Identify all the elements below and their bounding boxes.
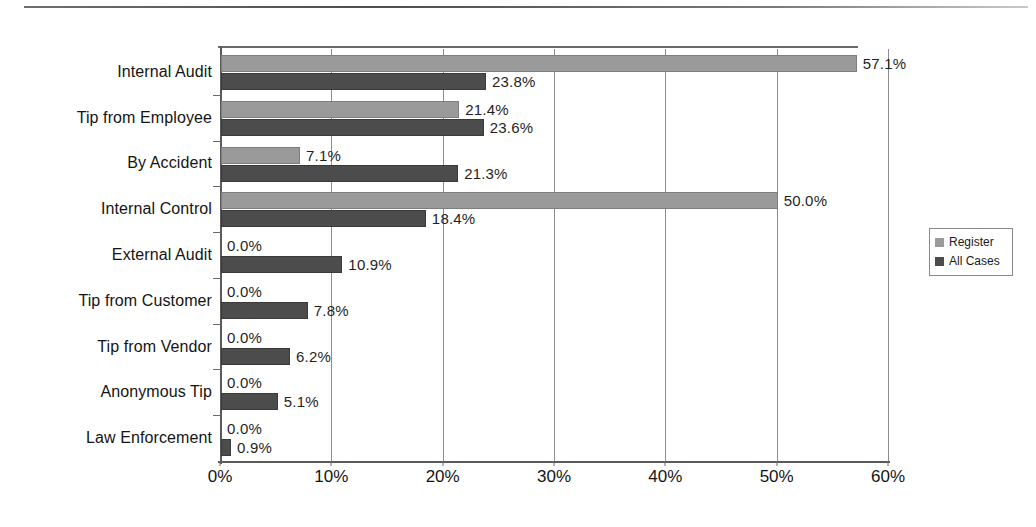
- category-label: Tip from Employee: [6, 109, 212, 127]
- bar-register: [221, 192, 778, 209]
- category-axis-labels: Internal AuditTip from EmployeeBy Accide…: [0, 49, 212, 461]
- category-label: Internal Audit: [6, 63, 212, 81]
- bar-group: 0.0%6.2%: [220, 324, 888, 370]
- bar-all-cases: [221, 393, 278, 410]
- bar-all-cases: [221, 73, 486, 90]
- bar-value-label: 23.6%: [490, 119, 534, 136]
- bar-group: 0.0%5.1%: [220, 369, 888, 415]
- x-tick-label: 50%: [760, 466, 794, 488]
- bar-group: 0.0%10.9%: [220, 232, 888, 278]
- bar-group: 0.0%0.9%: [220, 415, 888, 461]
- bar-group: 57.1%23.8%: [220, 49, 888, 95]
- bar-value-label: 18.4%: [432, 210, 476, 227]
- bar-group: 0.0%7.8%: [220, 278, 888, 324]
- bar-group: 50.0%18.4%: [220, 186, 888, 232]
- chart-legend: RegisterAll Cases: [929, 228, 1013, 276]
- bar-all-cases: [221, 348, 290, 365]
- bar-value-label: 5.1%: [284, 393, 319, 410]
- bar-register: [221, 55, 857, 72]
- bar-value-label: 0.0%: [227, 237, 262, 254]
- x-tick-label: 10%: [314, 466, 348, 488]
- bar-value-label: 23.8%: [492, 73, 536, 90]
- category-label: Law Enforcement: [6, 429, 212, 447]
- bar-value-label: 0.9%: [237, 439, 272, 456]
- bar-value-label: 50.0%: [784, 192, 828, 209]
- bar-value-label: 0.0%: [227, 420, 262, 437]
- bar-all-cases: [221, 165, 458, 182]
- x-axis-tick-labels: 0%10%20%30%40%50%60%: [220, 466, 888, 496]
- bar-value-label: 0.0%: [227, 283, 262, 300]
- bar-chart: Internal AuditTip from EmployeeBy Accide…: [0, 0, 1036, 527]
- category-label: By Accident: [6, 154, 212, 172]
- gridline: [888, 49, 889, 461]
- bar-register: [221, 101, 459, 118]
- x-tick-label: 60%: [871, 466, 905, 488]
- x-tick-label: 20%: [426, 466, 460, 488]
- bar-value-label: 0.0%: [227, 329, 262, 346]
- x-tick-label: 40%: [648, 466, 682, 488]
- legend-swatch-icon: [935, 257, 944, 266]
- bar-group: 7.1%21.3%: [220, 141, 888, 187]
- bar-all-cases: [221, 302, 308, 319]
- x-tick-label: 30%: [537, 466, 571, 488]
- bar-all-cases: [221, 256, 342, 273]
- bar-all-cases: [221, 210, 426, 227]
- plot-top-edge: [218, 46, 858, 48]
- bar-value-label: 21.4%: [465, 101, 509, 118]
- bar-all-cases: [221, 119, 484, 136]
- bar-value-label: 7.8%: [314, 302, 349, 319]
- bar-value-label: 21.3%: [464, 165, 508, 182]
- legend-item: All Cases: [935, 252, 1007, 271]
- bar-value-label: 0.0%: [227, 374, 262, 391]
- legend-label: Register: [949, 236, 994, 249]
- category-label: Tip from Customer: [6, 292, 212, 310]
- category-label: Tip from Vendor: [6, 338, 212, 356]
- bar-group: 21.4%23.6%: [220, 95, 888, 141]
- bar-value-label: 57.1%: [863, 55, 907, 72]
- plot-area: 57.1%23.8%21.4%23.6%7.1%21.3%50.0%18.4%0…: [220, 49, 888, 461]
- bar-register: [221, 147, 300, 164]
- category-label: Internal Control: [6, 200, 212, 218]
- legend-label: All Cases: [949, 255, 1000, 268]
- legend-swatch-icon: [935, 238, 944, 247]
- category-label: External Audit: [6, 246, 212, 264]
- bar-value-label: 10.9%: [348, 256, 392, 273]
- category-label: Anonymous Tip: [6, 383, 212, 401]
- legend-item: Register: [935, 233, 1007, 252]
- bar-all-cases: [221, 439, 231, 456]
- bar-value-label: 6.2%: [296, 348, 331, 365]
- bar-value-label: 7.1%: [306, 147, 341, 164]
- x-tick-label: 0%: [208, 466, 233, 488]
